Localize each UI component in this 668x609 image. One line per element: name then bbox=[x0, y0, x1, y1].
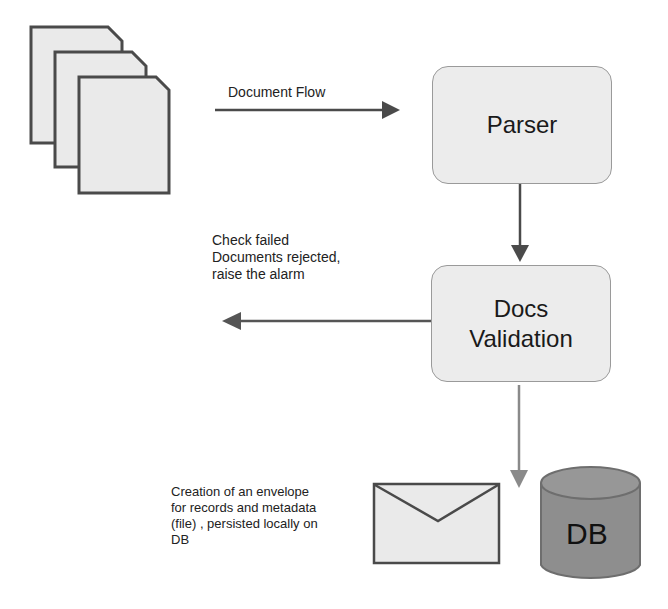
validation-label-line2: Validation bbox=[469, 324, 573, 354]
persist-label-line: (file) , persisted locally on bbox=[171, 516, 318, 532]
docs-validation-node: Docs Validation bbox=[431, 265, 611, 382]
rejected-label-line: Documents rejected, bbox=[212, 249, 340, 266]
parser-label: Parser bbox=[487, 110, 558, 140]
persist-label: Creation of an envelope for records and … bbox=[171, 484, 318, 548]
documents-stack-icon bbox=[31, 27, 169, 193]
rejected-label-line: raise the alarm bbox=[212, 266, 340, 283]
parser-to-validation-arrow bbox=[511, 183, 529, 262]
validation-to-db-arrow bbox=[510, 385, 528, 488]
rejected-label: Check failed Documents rejected, raise t… bbox=[212, 232, 340, 283]
persist-label-line: Creation of an envelope bbox=[171, 484, 318, 500]
db-label: DB bbox=[566, 517, 608, 551]
validation-label-line1: Docs bbox=[494, 294, 549, 324]
persist-label-line: DB bbox=[171, 532, 318, 548]
envelope-icon bbox=[374, 484, 499, 563]
document-flow-label: Document Flow bbox=[228, 84, 325, 101]
persist-label-line: for records and metadata bbox=[171, 500, 318, 516]
document-flow-arrow bbox=[215, 101, 400, 119]
parser-node: Parser bbox=[432, 66, 612, 184]
rejected-label-line: Check failed bbox=[212, 232, 340, 249]
rejected-arrow bbox=[222, 312, 431, 330]
